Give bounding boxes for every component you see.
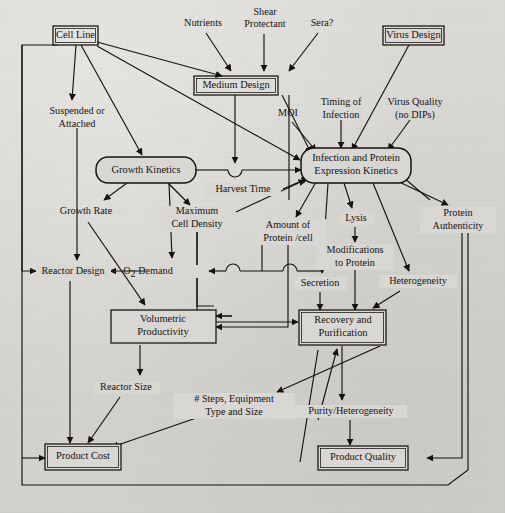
virus-design-label: Virus Design bbox=[386, 29, 441, 40]
edge-cellline-suspended bbox=[72, 45, 76, 100]
node-reactor-design: Reactor Design bbox=[36, 265, 111, 278]
edge-infection-amount bbox=[296, 182, 316, 217]
recovery-label-2: Purification bbox=[318, 327, 368, 338]
edge-cellline-rail-reactordesign bbox=[22, 45, 57, 271]
node-cell-line[interactable]: Cell Line bbox=[53, 26, 98, 45]
volumetric-label-1: Volumetric bbox=[140, 313, 186, 324]
timing-label-1: Timing of bbox=[321, 96, 362, 107]
line-hop-3 bbox=[226, 264, 240, 271]
edge-growthrate-volumetric bbox=[88, 222, 145, 305]
protein-authenticity-label-2: Authenticity bbox=[433, 220, 485, 231]
node-shear-protectant: Shear Protectant bbox=[244, 6, 285, 29]
node-purity-heterogeneity: Purity/Heterogeneity bbox=[295, 405, 407, 418]
steps-equipment-label-1: # Steps, Equipment bbox=[194, 393, 274, 404]
harvest-time-label: Harvest Time bbox=[215, 183, 271, 194]
amount-protein-label-2: Protein /cell bbox=[263, 232, 313, 243]
virus-quality-label-1: Virus Quality bbox=[387, 96, 443, 107]
reactor-design-label: Reactor Design bbox=[41, 265, 104, 276]
max-cell-density-label-1: Maximum bbox=[176, 205, 219, 216]
suspended-label-2: Attached bbox=[59, 118, 96, 129]
node-recovery-purification[interactable]: Recovery and Purification bbox=[299, 310, 386, 345]
edge-steps-productcost bbox=[112, 415, 205, 447]
node-product-quality[interactable]: Product Quality bbox=[318, 446, 408, 470]
node-o2-demand: O2 Demand bbox=[123, 265, 208, 279]
product-quality-label: Product Quality bbox=[330, 451, 397, 462]
nutrients-label: Nutrients bbox=[184, 17, 222, 28]
node-timing-of-infection: Timing of Infection bbox=[321, 96, 362, 120]
node-heterogeneity: Heterogeneity bbox=[379, 275, 457, 288]
edge-moi-infection bbox=[292, 122, 316, 151]
node-infection-expression-kinetics[interactable]: Infection and Protein Expression Kinetic… bbox=[301, 148, 411, 183]
suspended-label-1: Suspended or bbox=[49, 105, 105, 116]
process-flow-diagram: Cell Line Nutrients Shear Protectant Ser… bbox=[0, 0, 505, 513]
node-suspended-or-attached: Suspended or Attached bbox=[49, 105, 105, 129]
node-protein-authenticity: Protein Authenticity bbox=[420, 207, 496, 233]
edge-nutrients-medium bbox=[206, 33, 231, 71]
edge-infection-lysis bbox=[344, 183, 352, 208]
edge-amount-volumetric bbox=[216, 241, 288, 327]
growth-rate-label: Growth Rate bbox=[60, 205, 113, 216]
node-steps-equipment: # Steps, Equipment Type and Size bbox=[173, 393, 295, 419]
max-cell-density-label-2: Cell Density bbox=[171, 218, 223, 229]
node-volumetric-productivity[interactable]: Volumetric Productivity bbox=[111, 310, 216, 343]
secretion-label: Secretion bbox=[301, 277, 339, 288]
lysis-label: Lysis bbox=[345, 212, 367, 223]
protein-authenticity-label-1: Protein bbox=[443, 207, 472, 218]
node-moi: MOI bbox=[278, 107, 298, 118]
reactor-size-label: Reactor Size bbox=[100, 381, 152, 392]
amount-protein-label-1: Amount of bbox=[266, 219, 311, 230]
node-virus-design[interactable]: Virus Design bbox=[383, 26, 444, 45]
virus-quality-label-2: (no DIPs) bbox=[395, 109, 435, 121]
sera-label: Sera? bbox=[311, 17, 334, 28]
modifications-label-1: Modifications bbox=[326, 244, 383, 255]
heterogeneity-label: Heterogeneity bbox=[389, 275, 448, 286]
growth-kinetics-label: Growth Kinetics bbox=[112, 164, 181, 175]
node-secretion: Secretion bbox=[294, 277, 347, 290]
edge-cellline-growth bbox=[81, 45, 142, 155]
shear-protectant-label-1: Shear bbox=[253, 6, 277, 17]
line-hop-2 bbox=[283, 264, 297, 271]
edge-growth-maxdensity bbox=[168, 183, 190, 205]
infection-label-1: Infection and Protein bbox=[312, 152, 401, 163]
recovery-label-1: Recovery and bbox=[314, 314, 372, 325]
edge-growth-growthrate bbox=[104, 183, 127, 200]
purity-heterogeneity-label: Purity/Heterogeneity bbox=[308, 405, 394, 416]
node-amount-of-protein: Amount of Protein /cell bbox=[252, 219, 326, 245]
infection-label-2: Expression Kinetics bbox=[314, 165, 397, 176]
moi-label: MOI bbox=[278, 107, 298, 118]
modifications-label-2: to Protein bbox=[335, 257, 375, 268]
timing-label-2: Infection bbox=[323, 109, 360, 120]
steps-equipment-label-2: Type and Size bbox=[205, 406, 263, 417]
node-modifications-to-protein: Modifications to Protein bbox=[316, 244, 394, 270]
edge-reactorsize-productcost bbox=[88, 397, 120, 443]
node-growth-rate: Growth Rate bbox=[60, 205, 113, 216]
volumetric-label-2: Productivity bbox=[137, 326, 189, 337]
node-virus-quality: Virus Quality (no DIPs) bbox=[387, 96, 443, 121]
shear-protectant-label-2: Protectant bbox=[244, 18, 285, 29]
diagram-canvas: Cell Line Nutrients Shear Protectant Ser… bbox=[0, 0, 505, 513]
node-nutrients: Nutrients bbox=[184, 17, 222, 28]
edge-authenticity-productquality bbox=[427, 230, 462, 458]
node-lysis: Lysis bbox=[340, 212, 374, 225]
edge-virusquality-infection bbox=[388, 120, 410, 150]
node-maximum-cell-density: Maximum Cell Density bbox=[161, 205, 233, 232]
medium-design-label: Medium Design bbox=[202, 79, 270, 90]
edge-medium-infection bbox=[282, 95, 311, 153]
product-cost-label: Product Cost bbox=[56, 450, 110, 461]
cell-line-label: Cell Line bbox=[56, 29, 95, 40]
edge-cellline-infection bbox=[97, 46, 300, 160]
node-reactor-size: Reactor Size bbox=[93, 381, 160, 394]
node-growth-kinetics[interactable]: Growth Kinetics bbox=[96, 157, 196, 183]
node-sera: Sera? bbox=[311, 17, 334, 28]
node-medium-design[interactable]: Medium Design bbox=[194, 76, 278, 95]
line-hop-1 bbox=[228, 170, 242, 177]
edge-sera-medium bbox=[289, 33, 318, 71]
node-product-cost[interactable]: Product Cost bbox=[45, 444, 121, 470]
edge-cellline-medium bbox=[97, 42, 222, 76]
edge-heterogeneity-recovery bbox=[373, 291, 400, 308]
edge-recovery-steps bbox=[277, 346, 380, 392]
edge-infection-rail-right bbox=[404, 178, 430, 200]
node-harvest-time: Harvest Time bbox=[205, 183, 281, 196]
